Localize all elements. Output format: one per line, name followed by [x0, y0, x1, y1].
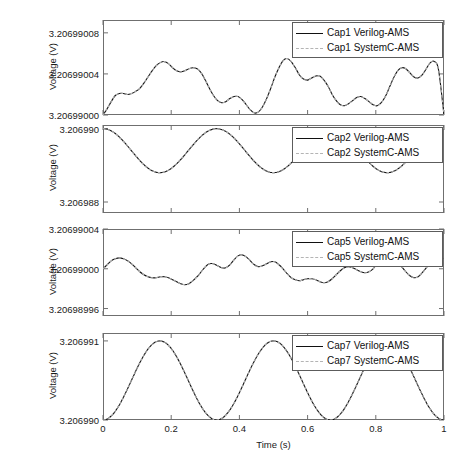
x-tick-label: 0.4 — [233, 423, 246, 434]
y-tick-label: 3.206991 — [59, 335, 99, 346]
legend-swatch-dashed — [296, 252, 323, 262]
legend-line-sample — [296, 33, 323, 34]
legend-line-sample — [296, 153, 323, 154]
x-tick-label: 1 — [441, 423, 446, 434]
legend-cap2: Cap2 Verilog-AMSCap2 SystemC-AMS — [292, 127, 443, 163]
y-axis-label: Voltage (V) — [47, 21, 58, 111]
y-tick-label: 3.206990 — [59, 415, 99, 426]
legend-line-sample — [296, 361, 323, 362]
x-tick-label: 0.2 — [165, 423, 178, 434]
legend-swatch-solid — [296, 28, 323, 38]
legend-entry: Cap2 Verilog-AMS — [296, 130, 438, 145]
legend-cap1: Cap1 Verilog-AMSCap1 SystemC-AMS — [292, 22, 443, 58]
legend-label: Cap7 SystemC-AMS — [327, 356, 419, 366]
legend-label: Cap5 SystemC-AMS — [327, 252, 419, 262]
legend-line-sample — [296, 257, 323, 258]
legend-entry: Cap2 SystemC-AMS — [296, 145, 438, 160]
legend-label: Cap2 SystemC-AMS — [327, 148, 419, 158]
series-line-cap1-systemc-ams — [103, 58, 444, 115]
x-axis-label: Time (s) — [256, 439, 290, 450]
x-tick-label: 0.8 — [369, 423, 382, 434]
x-tick-label: 0 — [100, 423, 105, 434]
legend-label: Cap7 Verilog-AMS — [327, 341, 409, 351]
legend-swatch-solid — [296, 237, 323, 247]
legend-entry: Cap1 SystemC-AMS — [296, 40, 438, 55]
legend-swatch-dashed — [296, 356, 323, 366]
figure-multi-panel-voltage-plot: 3.206990003.206990043.20699008Voltage (V… — [0, 0, 471, 461]
series-line-cap1-verilog-ams — [103, 58, 444, 115]
legend-label: Cap1 SystemC-AMS — [327, 43, 419, 53]
legend-swatch-solid — [296, 341, 323, 351]
legend-line-sample — [296, 48, 323, 49]
legend-entry: Cap7 Verilog-AMS — [296, 338, 438, 353]
legend-label: Cap1 Verilog-AMS — [327, 28, 409, 38]
legend-swatch-dashed — [296, 148, 323, 158]
legend-line-sample — [296, 242, 323, 243]
legend-entry: Cap5 SystemC-AMS — [296, 249, 438, 264]
legend-entry: Cap1 Verilog-AMS — [296, 25, 438, 40]
legend-swatch-dashed — [296, 43, 323, 53]
legend-swatch-solid — [296, 133, 323, 143]
y-tick-label: 3.206990 — [59, 123, 99, 134]
y-axis-label: Voltage (V) — [47, 123, 58, 213]
legend-entry: Cap7 SystemC-AMS — [296, 353, 438, 368]
y-tick-label: 3.206988 — [59, 197, 99, 208]
legend-cap7: Cap7 Verilog-AMSCap7 SystemC-AMS — [292, 335, 443, 371]
x-tick-label: 0.6 — [301, 423, 314, 434]
legend-line-sample — [296, 138, 323, 139]
y-axis-label: Voltage (V) — [47, 330, 58, 420]
legend-cap5: Cap5 Verilog-AMSCap5 SystemC-AMS — [292, 231, 443, 267]
legend-entry: Cap5 Verilog-AMS — [296, 234, 438, 249]
legend-label: Cap2 Verilog-AMS — [327, 133, 409, 143]
legend-label: Cap5 Verilog-AMS — [327, 237, 409, 247]
legend-line-sample — [296, 346, 323, 347]
y-axis-label: Voltage (V) — [47, 226, 58, 316]
